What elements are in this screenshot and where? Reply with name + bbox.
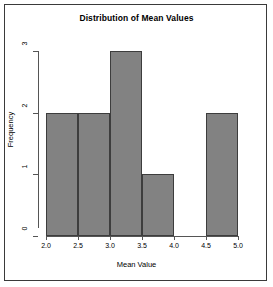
x-tick bbox=[46, 236, 47, 240]
x-tick bbox=[174, 236, 175, 240]
y-tick bbox=[33, 113, 38, 114]
y-tick bbox=[33, 51, 38, 52]
x-tick bbox=[142, 236, 143, 240]
x-tick bbox=[110, 236, 111, 240]
histogram-bar bbox=[142, 174, 174, 236]
histogram-bar bbox=[78, 113, 110, 236]
y-axis-label: Frequency bbox=[6, 90, 15, 170]
x-tick-label: 3.5 bbox=[130, 242, 154, 249]
histogram-bar bbox=[46, 113, 78, 236]
x-tick-label: 2.0 bbox=[34, 242, 58, 249]
y-tick-label: 0 bbox=[21, 227, 28, 243]
x-tick bbox=[78, 236, 79, 240]
y-tick bbox=[33, 236, 38, 237]
histogram-bar bbox=[110, 51, 142, 236]
y-tick-label: 1 bbox=[21, 165, 28, 181]
x-tick-label: 5.0 bbox=[226, 242, 250, 249]
histogram-chart: Distribution of Mean Values Frequency Me… bbox=[0, 0, 273, 287]
histogram-bar bbox=[206, 113, 238, 236]
y-tick-label: 3 bbox=[21, 42, 28, 58]
x-tick-label: 3.0 bbox=[98, 242, 122, 249]
x-tick-label: 4.0 bbox=[162, 242, 186, 249]
x-axis-label: Mean Value bbox=[0, 260, 273, 269]
x-tick bbox=[238, 236, 239, 240]
y-tick bbox=[33, 174, 38, 175]
chart-title: Distribution of Mean Values bbox=[0, 13, 273, 23]
x-tick-label: 4.5 bbox=[194, 242, 218, 249]
x-tick bbox=[206, 236, 207, 240]
y-tick-label: 2 bbox=[21, 103, 28, 119]
x-tick-label: 2.5 bbox=[66, 242, 90, 249]
y-axis-line bbox=[38, 51, 39, 228]
